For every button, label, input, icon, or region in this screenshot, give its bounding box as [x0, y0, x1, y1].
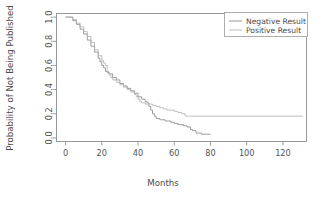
x-axis-ticks: 020406080100120: [63, 142, 291, 158]
y-tick-label: 1.0: [44, 11, 54, 24]
x-tick-label: 100: [239, 148, 255, 158]
y-tick-label: 0.0: [44, 131, 54, 144]
y-tick-label: 0.4: [44, 83, 54, 96]
x-tick-label: 80: [205, 148, 215, 158]
x-tick-label: 40: [133, 148, 143, 158]
x-tick-label: 120: [275, 148, 291, 158]
x-axis-title: Months: [147, 178, 179, 188]
y-axis-ticks: 0.00.20.40.60.81.0: [44, 11, 57, 145]
x-tick-label: 60: [169, 148, 179, 158]
legend-label-positive: Positive Result: [246, 26, 301, 35]
x-tick-label: 0: [63, 148, 68, 158]
y-tick-label: 0.8: [44, 35, 54, 48]
y-axis-title: Probability of Not Being Published: [5, 5, 15, 151]
y-tick-label: 0.6: [44, 59, 54, 72]
x-tick-label: 20: [97, 148, 107, 158]
chart-canvas: 0.00.20.40.60.81.0 020406080100120 Month…: [0, 0, 319, 198]
y-tick-label: 0.2: [44, 107, 54, 120]
legend-label-negative: Negative Result: [246, 17, 306, 26]
legend: Negative Result Positive Result: [225, 13, 308, 37]
survival-curve-figure: 0.00.20.40.60.81.0 020406080100120 Month…: [0, 0, 319, 198]
